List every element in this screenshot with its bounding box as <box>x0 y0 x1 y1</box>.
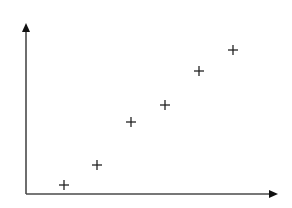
chart-canvas <box>0 0 292 208</box>
data-points <box>59 45 238 190</box>
scatter-chart <box>0 0 292 208</box>
y-axis-arrow-icon <box>22 23 30 32</box>
data-point-plus-icon <box>228 45 238 55</box>
data-point-plus-icon <box>59 180 69 190</box>
x-axis-arrow-icon <box>269 190 278 198</box>
data-point-plus-icon <box>160 100 170 110</box>
axes <box>22 23 278 198</box>
data-point-plus-icon <box>194 66 204 76</box>
data-point-plus-icon <box>126 117 136 127</box>
data-point-plus-icon <box>92 160 102 170</box>
